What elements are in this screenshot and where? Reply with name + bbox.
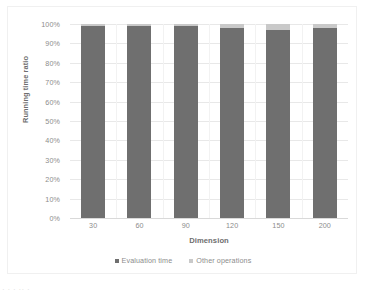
stacked-bar[interactable] bbox=[313, 24, 337, 218]
legend-item[interactable]: Evaluation time bbox=[115, 256, 173, 265]
bar-segment-evaluation-time[interactable] bbox=[220, 28, 244, 218]
bar-segment-evaluation-time[interactable] bbox=[174, 26, 198, 218]
y-axis-tick-label: 60% bbox=[45, 97, 60, 106]
bar-segment-evaluation-time[interactable] bbox=[81, 26, 105, 218]
bar-group[interactable] bbox=[116, 24, 162, 218]
y-axis-tick-label: 0% bbox=[49, 214, 60, 223]
bar-segment-evaluation-time[interactable] bbox=[266, 30, 290, 218]
bar-group[interactable] bbox=[163, 24, 209, 218]
legend-item-label: Evaluation time bbox=[122, 256, 173, 265]
stacked-bar[interactable] bbox=[266, 24, 290, 218]
x-axis-tick-label: 120 bbox=[226, 221, 238, 230]
chart-container: Running time ratio 100%90%80%70%60%50%40… bbox=[7, 6, 357, 274]
x-axis-tick-label: 30 bbox=[89, 221, 97, 230]
legend-item[interactable]: Other operations bbox=[189, 256, 251, 265]
y-axis-tick-label: 80% bbox=[45, 58, 60, 67]
y-axis-tick-label: 10% bbox=[45, 194, 60, 203]
x-axis-tick-label: 90 bbox=[182, 221, 190, 230]
legend-item-label: Other operations bbox=[196, 256, 251, 265]
bar-segment-evaluation-time[interactable] bbox=[127, 26, 151, 218]
stacked-bar[interactable] bbox=[220, 24, 244, 218]
y-axis-tick-label: 20% bbox=[45, 175, 60, 184]
y-axis-tick-label: 40% bbox=[45, 136, 60, 145]
bar-group[interactable] bbox=[255, 24, 301, 218]
x-axis-title: Dimension bbox=[70, 236, 348, 245]
bar-group[interactable] bbox=[70, 24, 116, 218]
bar-segment-evaluation-time[interactable] bbox=[313, 28, 337, 218]
caption-fragment: · · · ·· · bbox=[2, 285, 142, 294]
stacked-bar[interactable] bbox=[127, 24, 151, 218]
square-marker-icon bbox=[115, 259, 119, 263]
y-axis-tick-labels: 100%90%80%70%60%50%40%30%20%10%0% bbox=[8, 24, 66, 218]
square-marker-icon bbox=[189, 259, 193, 263]
y-axis-tick-label: 50% bbox=[45, 117, 60, 126]
y-axis-tick-label: 30% bbox=[45, 155, 60, 164]
bar-group[interactable] bbox=[302, 24, 348, 218]
gridline bbox=[70, 218, 348, 219]
stacked-bar[interactable] bbox=[174, 24, 198, 218]
plot-area bbox=[70, 24, 348, 218]
x-axis-tick-label: 60 bbox=[135, 221, 143, 230]
chart-legend: Evaluation timeOther operations bbox=[8, 256, 358, 265]
x-axis-tick-label: 150 bbox=[272, 221, 284, 230]
y-axis-tick-label: 70% bbox=[45, 78, 60, 87]
x-axis-tick-label: 200 bbox=[319, 221, 331, 230]
y-axis-tick-label: 90% bbox=[45, 39, 60, 48]
bar-group[interactable] bbox=[209, 24, 255, 218]
y-axis-tick-label: 100% bbox=[41, 20, 60, 29]
stacked-bar[interactable] bbox=[81, 24, 105, 218]
x-axis-tick-labels: 306090120150200 bbox=[70, 221, 348, 235]
